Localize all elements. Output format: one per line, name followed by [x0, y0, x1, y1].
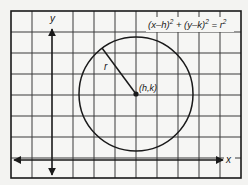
equation-part-3: = r [209, 19, 224, 30]
circle-equation-diagram: y x r (h,k) (x–h)2 + (y–k)2 = r2 [0, 0, 248, 185]
x-axis-label: x [225, 154, 232, 165]
equation-part-2: + (y–k) [173, 19, 205, 30]
equation-exponent-3: 2 [222, 18, 227, 25]
circle-equation: (x–h)2 + (y–k)2 = r2 [148, 18, 227, 30]
center-point [133, 91, 138, 96]
diagram-svg: y x r (h,k) (x–h)2 + (y–k)2 = r2 [0, 0, 248, 185]
center-label: (h,k) [139, 83, 157, 93]
equation-part-1: (x–h) [148, 19, 170, 30]
y-axis-label: y [49, 13, 56, 24]
